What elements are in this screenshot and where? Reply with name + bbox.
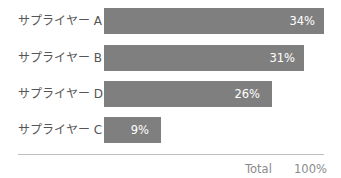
bar-row: サプライヤー D 26% <box>0 81 341 107</box>
bar: 9% <box>104 117 161 143</box>
category-label: サプライヤー D <box>18 81 103 107</box>
value-label: 9% <box>131 117 149 143</box>
bar: 31% <box>104 45 304 71</box>
value-label: 31% <box>269 45 295 71</box>
value-label: 26% <box>234 81 260 107</box>
bar: 34% <box>104 8 324 34</box>
divider <box>18 154 324 155</box>
total-value: 100% <box>294 161 327 177</box>
bar-row: サプライヤー B 31% <box>0 45 341 71</box>
total-label: Total <box>245 161 272 177</box>
category-label: サプライヤー B <box>18 45 102 71</box>
bar-row: サプライヤー C 9% <box>0 117 341 143</box>
bar-row: サプライヤー A 34% <box>0 8 341 34</box>
bar: 26% <box>104 81 272 107</box>
value-label: 34% <box>289 8 315 34</box>
category-label: サプライヤー A <box>18 8 102 34</box>
category-label: サプライヤー C <box>18 117 102 143</box>
